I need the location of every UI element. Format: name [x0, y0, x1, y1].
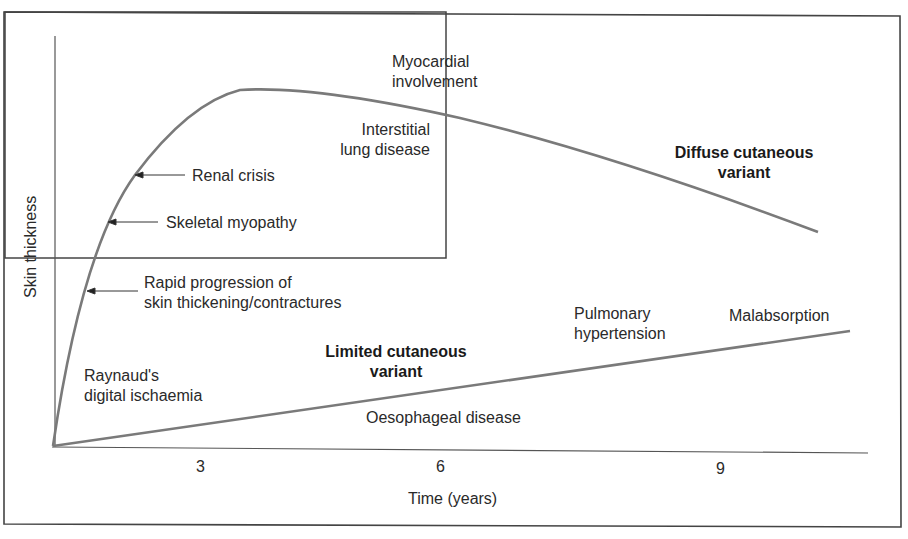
series-label-limited: Limited cutaneous variant — [298, 342, 494, 382]
annotation-rapid-progression: Rapid progression of skin thickening/con… — [144, 273, 341, 313]
annotation-oesophageal: Oesophageal disease — [366, 408, 521, 428]
x-tick-6: 6 — [436, 457, 445, 477]
annotation-myocardial: Myocardial involvement — [392, 52, 477, 92]
series-label-limited-line2: variant — [298, 362, 494, 382]
annotation-ild-line2: lung disease — [320, 140, 430, 160]
annotation-skeletal-myopathy: Skeletal myopathy — [166, 213, 297, 233]
annotation-raynauds-line2: digital ischaemia — [84, 386, 202, 406]
annotation-ild: Interstitial lung disease — [320, 120, 430, 160]
x-tick-9: 9 — [716, 459, 725, 479]
annotation-pulmonary-line2: hypertension — [574, 324, 666, 344]
annotation-raynauds-line1: Raynaud's — [84, 366, 202, 386]
series-label-limited-line1: Limited cutaneous — [298, 342, 494, 362]
annotation-myocardial-line2: involvement — [392, 72, 477, 92]
annotation-renal-crisis: Renal crisis — [192, 166, 275, 186]
series-label-diffuse-line1: Diffuse cutaneous — [650, 143, 838, 163]
x-axis — [52, 447, 868, 453]
annotation-ild-line1: Interstitial — [320, 120, 430, 140]
series-label-diffuse: Diffuse cutaneous variant — [650, 143, 838, 183]
annotation-myocardial-line1: Myocardial — [392, 52, 477, 72]
annotation-pulmonary-line1: Pulmonary — [574, 304, 666, 324]
annotation-rapid-line2: skin thickening/contractures — [144, 293, 341, 313]
annotation-malabsorption: Malabsorption — [729, 306, 830, 326]
series-label-diffuse-line2: variant — [650, 163, 838, 183]
annotation-raynauds: Raynaud's digital ischaemia — [84, 366, 202, 406]
x-axis-label: Time (years) — [408, 489, 497, 509]
annotation-pulmonary-hypertension: Pulmonary hypertension — [574, 304, 666, 344]
x-tick-3: 3 — [196, 457, 205, 477]
y-axis-label: Skin thickness — [22, 196, 40, 298]
annotation-rapid-line1: Rapid progression of — [144, 273, 341, 293]
